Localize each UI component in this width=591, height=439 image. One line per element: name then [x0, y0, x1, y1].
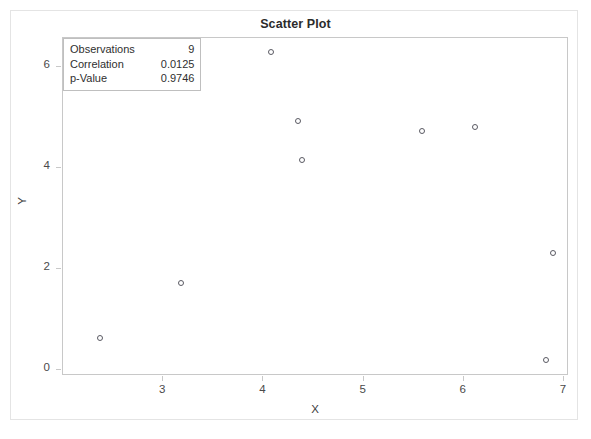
- y-tick-label: 0: [16, 361, 50, 373]
- x-tick-label: 3: [142, 383, 182, 395]
- y-tick-mark: [56, 66, 61, 67]
- x-tick-label: 6: [443, 383, 483, 395]
- statistic-label: Correlation: [70, 57, 161, 72]
- x-tick-mark: [463, 376, 464, 381]
- statistics-box: Observations9Correlation0.0125p-Value0.9…: [63, 38, 201, 91]
- x-tick-mark: [162, 376, 163, 381]
- statistic-label: p-Value: [70, 71, 161, 86]
- statistics-table: Observations9Correlation0.0125p-Value0.9…: [70, 42, 194, 86]
- scatter-point: [268, 49, 274, 55]
- scatter-point: [472, 124, 478, 130]
- statistic-label: Observations: [70, 42, 161, 57]
- statistics-row: Observations9: [70, 42, 194, 57]
- scatter-point: [97, 335, 103, 341]
- y-tick-label: 4: [16, 159, 50, 171]
- chart-figure: Scatter Plot 34567 0246 X Y Observations…: [0, 0, 591, 439]
- chart-title: Scatter Plot: [0, 17, 591, 31]
- x-axis-label: X: [62, 403, 568, 415]
- scatter-point: [543, 357, 549, 363]
- statistic-value: 9: [161, 42, 195, 57]
- x-tick-label: 5: [343, 383, 383, 395]
- statistic-value: 0.9746: [161, 71, 195, 86]
- x-tick-mark: [563, 376, 564, 381]
- scatter-point: [178, 280, 184, 286]
- y-tick-label: 6: [16, 58, 50, 70]
- y-tick-mark: [56, 268, 61, 269]
- y-tick-label: 2: [16, 260, 50, 272]
- x-tick-label: 4: [242, 383, 282, 395]
- y-axis-label: Y: [16, 171, 28, 231]
- statistic-value: 0.0125: [161, 57, 195, 72]
- scatter-point: [419, 128, 425, 134]
- x-tick-mark: [363, 376, 364, 381]
- scatter-point: [295, 118, 301, 124]
- statistics-row: Correlation0.0125: [70, 57, 194, 72]
- scatter-point: [299, 157, 305, 163]
- x-tick-mark: [262, 376, 263, 381]
- scatter-point: [550, 250, 556, 256]
- statistics-row: p-Value0.9746: [70, 71, 194, 86]
- y-tick-mark: [56, 167, 61, 168]
- x-tick-label: 7: [543, 383, 583, 395]
- y-tick-mark: [56, 369, 61, 370]
